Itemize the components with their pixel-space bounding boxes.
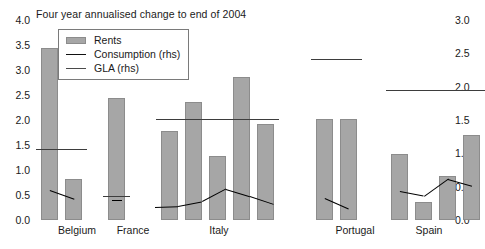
legend-item-consumption: Consumption (rhs): [65, 47, 180, 61]
x-axis-label-spain: Spain: [369, 224, 485, 236]
y-axis-right-tick: 1.5: [455, 115, 470, 125]
legend-item-rents: Rents: [65, 33, 180, 47]
consumption-line-icon: [65, 54, 87, 55]
gla-line-france: [103, 196, 130, 197]
legend-label-gla: GLA (rhs): [94, 62, 139, 74]
gla-line-belgium: [36, 149, 87, 150]
y-axis-left-tick: 2.0: [15, 115, 30, 125]
bar-spain-4: [463, 135, 480, 220]
gla-line-portugal: [311, 59, 362, 60]
bar-spain-1: [391, 154, 408, 221]
y-axis-right-tick: 3.0: [455, 15, 470, 25]
chart-title: Four year annualised change to end of 20…: [36, 8, 246, 20]
bar-france-1: [108, 98, 125, 221]
legend-label-consumption: Consumption (rhs): [94, 48, 180, 60]
consumption-line-france: [112, 200, 122, 201]
gla-line-spain: [386, 90, 485, 91]
y-axis-right-tick: 2.5: [455, 48, 470, 58]
chart-container: Four year annualised change to end of 20…: [0, 0, 485, 249]
gla-line-italy: [156, 119, 279, 120]
gla-line-icon: [65, 68, 87, 69]
y-axis-left-tick: 1.0: [15, 165, 30, 175]
bar-italy-5: [257, 124, 274, 220]
y-axis-left-tick: 0.5: [15, 190, 30, 200]
bar-italy-3: [209, 156, 226, 221]
chart-legend: Rents Consumption (rhs) GLA (rhs): [58, 29, 189, 80]
y-axis-left-tick: 1.5: [15, 140, 30, 150]
x-axis-label-italy: Italy: [159, 224, 279, 236]
bar-italy-4: [233, 77, 250, 221]
y-axis-left-tick: 4.0: [15, 15, 30, 25]
legend-item-gla: GLA (rhs): [65, 61, 180, 75]
y-axis-left-tick: 3.5: [15, 40, 30, 50]
y-axis-left-tick: 3.0: [15, 65, 30, 75]
bar-spain-2: [415, 202, 432, 221]
bar-belgium-1: [41, 48, 58, 221]
consumption-line-italy: [155, 206, 178, 208]
legend-label-rents: Rents: [94, 34, 121, 46]
y-axis-left-tick: 2.5: [15, 90, 30, 100]
bar-portugal-1: [316, 119, 333, 220]
rents-swatch-icon: [65, 37, 87, 44]
